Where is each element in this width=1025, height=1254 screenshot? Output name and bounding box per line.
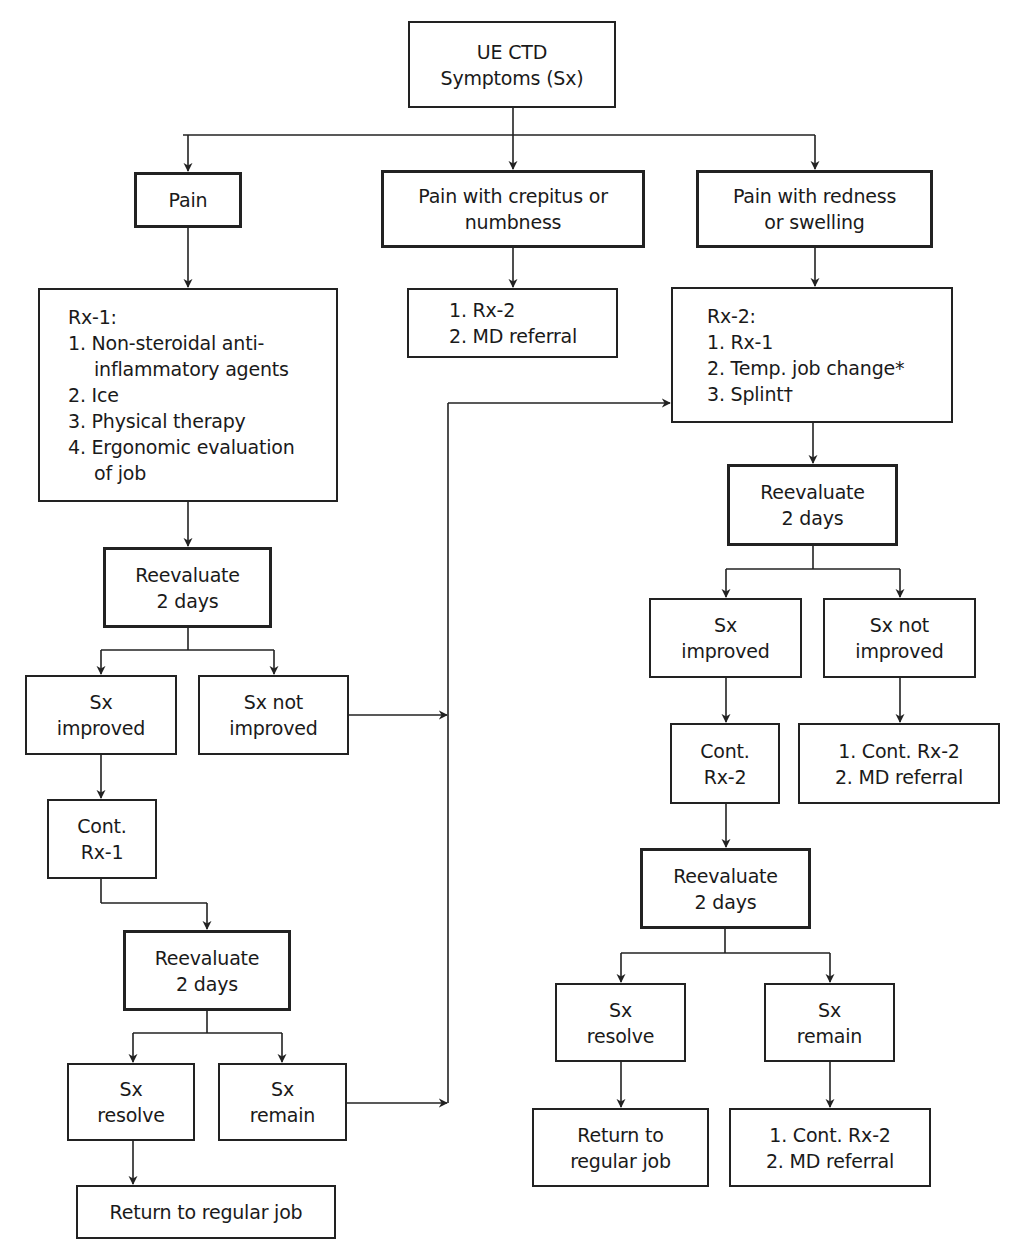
node-pain-sx-not-improved: Sx not improved [198,675,349,755]
node-text: Pain with crepitus or [418,183,608,209]
node-text: remain [250,1102,315,1128]
node-pain-crepitus-numbness: Pain with crepitus or numbness [381,170,645,248]
node-text: Pain [169,187,208,213]
node-text: improved [681,638,769,664]
node-text: remain [797,1023,862,1049]
node-redness-sx-remain: Sx remain [764,983,895,1062]
node-pain-reevaluate-1: Reevaluate 2 days [103,547,272,628]
node-text: Rx-1: [68,304,117,330]
node-redness-sx-not-improved: Sx not improved [823,598,976,678]
node-text: 2 days [695,889,757,915]
node-text: Rx-1 [81,839,124,865]
node-pain-sx-resolve: Sx resolve [67,1063,195,1141]
node-cont-rx1: Cont. Rx-1 [47,799,157,879]
node-text: Reevaluate [155,945,260,971]
node-text: 4. Ergonomic evaluation [68,434,295,460]
node-text: 2 days [157,588,219,614]
node-text: 3. Splint† [707,381,793,407]
node-pain-sx-improved: Sx improved [25,675,177,755]
node-text: 2 days [176,971,238,997]
node-text: Cont. [77,813,126,839]
node-text: Rx-2: [707,303,756,329]
node-redness-cont-rx2-md-referral: 1. Cont. Rx-2 2. MD referral [798,723,1000,804]
node-crepitus-treatment: 1. Rx-2 2. MD referral [407,288,618,358]
node-text: improved [855,638,943,664]
node-text: 2. MD referral [449,323,577,349]
node-text: 2. Temp. job change* [707,355,904,381]
node-pain: Pain [134,172,242,228]
node-text: 1. Rx-1 [707,329,773,355]
node-text: regular job [570,1148,671,1174]
node-text: 2. Ice [68,382,119,408]
node-text: Sx [609,997,632,1023]
node-text: resolve [587,1023,654,1049]
node-redness-sx-improved: Sx improved [649,598,802,678]
node-text: Return to regular job [110,1199,303,1225]
node-text: Sx [818,997,841,1023]
node-rx2-treatment: Rx-2: 1. Rx-1 2. Temp. job change* 3. Sp… [671,287,953,423]
node-text: Cont. [700,738,749,764]
node-text: Reevaluate [135,562,240,588]
node-redness-final-md-referral: 1. Cont. Rx-2 2. MD referral [729,1108,931,1187]
node-text: improved [57,715,145,741]
node-text: Sx not [244,689,303,715]
node-text: or swelling [764,209,864,235]
node-pain-sx-remain: Sx remain [218,1063,347,1141]
flowchart-canvas: UE CTD Symptoms (Sx) Pain Pain with crep… [0,0,1025,1254]
node-text: Reevaluate [673,863,778,889]
node-text: Return to [577,1122,663,1148]
node-redness-sx-resolve: Sx resolve [555,983,686,1062]
node-text: inflammatory agents [68,356,289,382]
node-text: Symptoms (Sx) [441,65,584,91]
node-text: 2. MD referral [766,1148,894,1174]
node-rx1-treatment: Rx-1: 1. Non-steroidal anti- inflammator… [38,288,338,502]
node-text: improved [229,715,317,741]
node-text: 1. Cont. Rx-2 [838,738,959,764]
node-text: of job [68,460,146,486]
node-text: 1. Rx-2 [449,297,515,323]
node-cont-rx2: Cont. Rx-2 [670,723,780,804]
node-text: Pain with redness [733,183,896,209]
node-text: Sx [714,612,737,638]
node-text: 3. Physical therapy [68,408,246,434]
node-text: Sx [120,1076,143,1102]
node-text: UE CTD [477,39,547,65]
node-redness-return-to-regular-job: Return to regular job [532,1108,709,1187]
node-text: 2. MD referral [835,764,963,790]
node-redness-reevaluate-1: Reevaluate 2 days [727,464,898,546]
node-pain-return-to-regular-job: Return to regular job [76,1185,336,1239]
node-text: 1. Cont. Rx-2 [769,1122,890,1148]
node-text: Rx-2 [704,764,747,790]
node-pain-redness-swelling: Pain with redness or swelling [696,170,933,248]
node-redness-reevaluate-2: Reevaluate 2 days [640,848,811,929]
node-text: resolve [97,1102,164,1128]
node-text: 1. Non-steroidal anti- [68,330,264,356]
node-text: numbness [465,209,562,235]
node-pain-reevaluate-2: Reevaluate 2 days [123,930,291,1011]
node-text: Reevaluate [760,479,865,505]
node-text: Sx [271,1076,294,1102]
node-ue-ctd-symptoms: UE CTD Symptoms (Sx) [408,21,616,108]
node-text: Sx not [870,612,929,638]
node-text: Sx [90,689,113,715]
node-text: 2 days [782,505,844,531]
